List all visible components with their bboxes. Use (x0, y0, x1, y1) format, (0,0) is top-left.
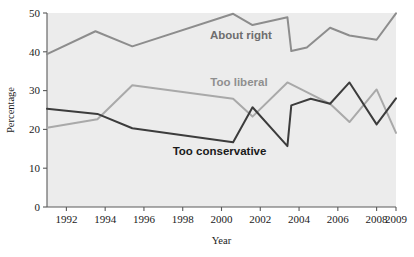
x-axis-title: Year (212, 235, 232, 246)
x-tick-label: 1998 (172, 213, 195, 225)
series-label-too-liberal: Too liberal (210, 76, 267, 88)
y-tick-label: 50 (29, 7, 41, 19)
y-tick-label: 30 (29, 84, 41, 96)
series-label-too-conservative: Too conservative (173, 145, 267, 157)
y-tick-label: 20 (29, 123, 41, 135)
x-tick-label: 2004 (288, 213, 311, 225)
series-label-about-right: About right (210, 29, 272, 41)
x-tick-label: 2000 (211, 213, 234, 225)
chart-canvas: 01020304050 1992199419961998200020022004… (0, 0, 414, 257)
x-tick-label: 2006 (327, 213, 350, 225)
y-tick-label: 40 (29, 46, 41, 58)
x-tick-label: 2009 (385, 213, 408, 225)
x-tick-label: 1992 (55, 213, 77, 225)
y-tick-label: 0 (35, 201, 41, 213)
x-tick-label: 1994 (94, 213, 117, 225)
plot-area-background (47, 13, 396, 207)
line-chart: 01020304050 1992199419961998200020022004… (0, 0, 414, 257)
y-tick-label: 10 (29, 162, 41, 174)
y-axis-title: Percentage (5, 87, 16, 133)
x-tick-label: 1996 (133, 213, 156, 225)
x-tick-label: 2002 (249, 213, 271, 225)
